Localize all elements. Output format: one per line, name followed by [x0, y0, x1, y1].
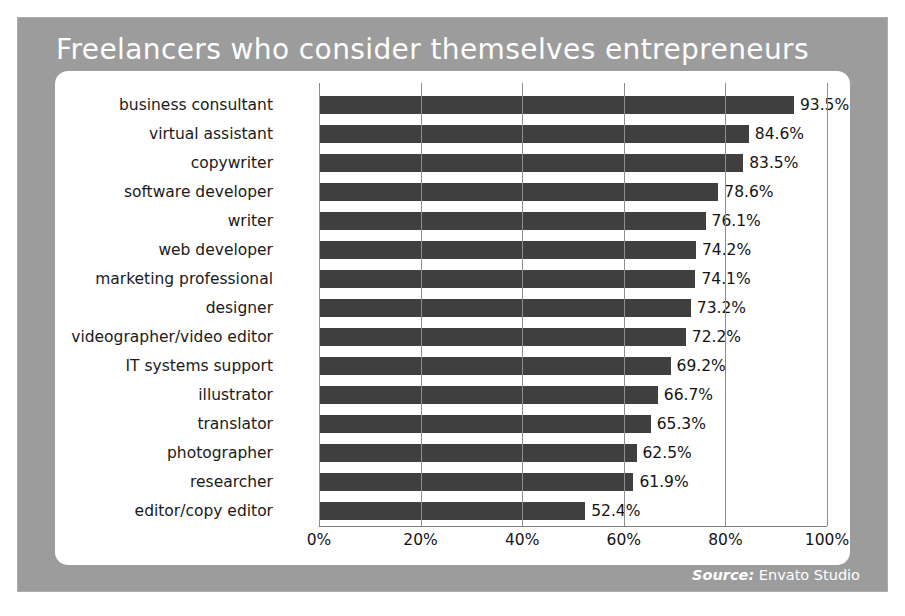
category-label: web developer — [55, 236, 281, 265]
category-label: marketing professional — [55, 265, 281, 294]
bar-value-label: 74.2% — [696, 241, 751, 259]
bar-row: 61.9% — [319, 468, 827, 497]
axis-baseline — [319, 526, 827, 527]
bar-value-label: 66.7% — [658, 386, 713, 404]
bar-value-label: 52.4% — [585, 502, 640, 520]
bar-value-label: 61.9% — [633, 473, 688, 491]
bar-row: 76.1% — [319, 207, 827, 236]
source-attribution: Source: Envato Studio — [692, 567, 860, 583]
category-label: illustrator — [55, 381, 281, 410]
bar — [319, 299, 691, 317]
source-label: Source: — [692, 567, 754, 583]
bar-value-label: 84.6% — [749, 125, 804, 143]
bar-row: 66.7% — [319, 381, 827, 410]
category-label: software developer — [55, 178, 281, 207]
bar-value-label: 76.1% — [706, 212, 761, 230]
bar — [319, 328, 686, 346]
bar-value-label: 73.2% — [691, 299, 746, 317]
bar-row: 65.3% — [319, 410, 827, 439]
category-label: virtual assistant — [55, 120, 281, 149]
bar-row: 73.2% — [319, 294, 827, 323]
bar-row: 74.1% — [319, 265, 827, 294]
bar-row: 69.2% — [319, 352, 827, 381]
x-tick-label: 100% — [805, 531, 849, 549]
category-label: photographer — [55, 439, 281, 468]
bar-row: 52.4% — [319, 497, 827, 526]
bar — [319, 212, 706, 230]
category-label: writer — [55, 207, 281, 236]
grid-line — [725, 83, 726, 526]
category-label: business consultant — [55, 91, 281, 120]
category-label: translator — [55, 410, 281, 439]
bar — [319, 154, 743, 172]
bar-value-label: 78.6% — [718, 183, 773, 201]
bar-value-label: 83.5% — [743, 154, 798, 172]
category-label: IT systems support — [55, 352, 281, 381]
category-label: videographer/video editor — [55, 323, 281, 352]
bar-value-label: 65.3% — [651, 415, 706, 433]
category-label: copywriter — [55, 149, 281, 178]
bars-container: 93.5%84.6%83.5%78.6%76.1%74.2%74.1%73.2%… — [319, 91, 827, 526]
x-axis-ticks: 0%20%40%60%80%100% — [319, 531, 827, 555]
bar-value-label: 72.2% — [686, 328, 741, 346]
bar — [319, 125, 749, 143]
grid-line — [827, 83, 828, 526]
x-tick-label: 40% — [505, 531, 539, 549]
bar — [319, 270, 695, 288]
bar — [319, 473, 633, 491]
grid-line — [624, 83, 625, 526]
chart-panel: business consultantvirtual assistantcopy… — [55, 71, 850, 565]
x-tick-label: 80% — [708, 531, 742, 549]
category-label: researcher — [55, 468, 281, 497]
grid-line — [421, 83, 422, 526]
grid-line — [522, 83, 523, 526]
x-tick-label: 20% — [403, 531, 437, 549]
source-name: Envato Studio — [754, 567, 860, 583]
bar-row: 84.6% — [319, 120, 827, 149]
plot-area: business consultantvirtual assistantcopy… — [55, 71, 850, 565]
page-title: Freelancers who consider themselves entr… — [56, 33, 876, 66]
grid-line — [319, 83, 320, 526]
bar — [319, 502, 585, 520]
category-axis: business consultantvirtual assistantcopy… — [55, 91, 281, 526]
chart-frame: Freelancers who consider themselves entr… — [17, 17, 888, 592]
bar-row: 72.2% — [319, 323, 827, 352]
bar — [319, 96, 794, 114]
bar — [319, 241, 696, 259]
bar — [319, 444, 637, 462]
bar — [319, 415, 651, 433]
bar — [319, 183, 718, 201]
bar-row: 74.2% — [319, 236, 827, 265]
bar-value-label: 62.5% — [637, 444, 692, 462]
bar-value-label: 69.2% — [671, 357, 726, 375]
bar-row: 83.5% — [319, 149, 827, 178]
bar — [319, 386, 658, 404]
bar-value-label: 74.1% — [695, 270, 750, 288]
x-tick-label: 60% — [607, 531, 641, 549]
category-label: designer — [55, 294, 281, 323]
bar-row: 78.6% — [319, 178, 827, 207]
x-tick-label: 0% — [307, 531, 332, 549]
bar — [319, 357, 671, 375]
category-label: editor/copy editor — [55, 497, 281, 526]
bar-value-label: 93.5% — [794, 96, 849, 114]
bar-row: 93.5% — [319, 91, 827, 120]
bar-row: 62.5% — [319, 439, 827, 468]
